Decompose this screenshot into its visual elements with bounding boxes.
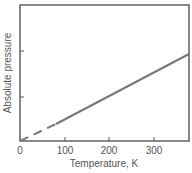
measured-line-solid bbox=[56, 54, 189, 124]
extrapolated-line-dashed bbox=[20, 124, 56, 141]
x-tick-label: 100 bbox=[57, 145, 74, 156]
x-tick-label: 300 bbox=[146, 145, 163, 156]
plot-frame bbox=[20, 5, 189, 141]
chart: 0 100 200 300 Temperature, K Absolute pr… bbox=[0, 0, 192, 173]
x-tick-label: 0 bbox=[17, 145, 23, 156]
x-tick-label: 200 bbox=[101, 145, 118, 156]
y-axis-title: Absolute pressure bbox=[2, 32, 13, 113]
x-axis-title: Temperature, K bbox=[70, 158, 139, 169]
